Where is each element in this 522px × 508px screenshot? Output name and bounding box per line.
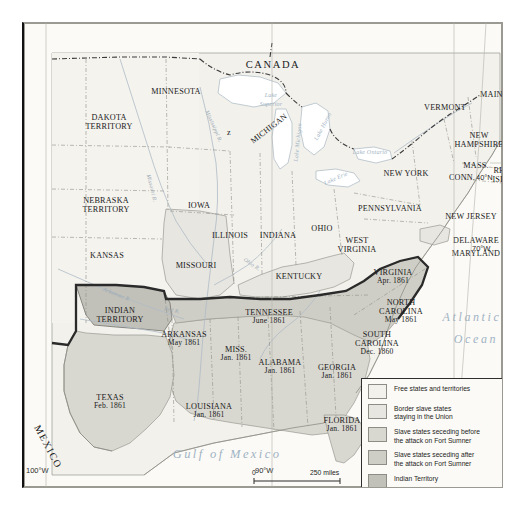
legend-label-line2: the attack on Fort Sumner xyxy=(394,437,480,446)
state-name: NEW JERSEY xyxy=(428,212,503,221)
state-label: MAINE xyxy=(451,90,503,99)
legend-label-line1: Slave states seceding after xyxy=(394,451,474,460)
scale-miles-label: 250 miles xyxy=(310,469,339,476)
state-name: VERMONT xyxy=(402,103,488,112)
legend-item: Free states and territories xyxy=(368,384,503,399)
state-label: MARYLAND xyxy=(433,249,503,258)
atlantic-ocean-label: Atlantic xyxy=(436,311,503,324)
state-label: NEW JERSEY xyxy=(428,212,503,221)
state-name: INDIAN xyxy=(77,306,163,315)
state-label: OHIO xyxy=(279,224,365,233)
state-name: IOWA xyxy=(156,201,242,210)
state-secession-date: June 1861 xyxy=(226,317,312,326)
legend-label-line1: Border slave states xyxy=(394,405,453,414)
scale-miles-zero: 0 xyxy=(252,469,256,476)
state-name: MISSOURI xyxy=(153,261,239,270)
canada-label: CANADA xyxy=(234,59,312,71)
state-name: SOUTH xyxy=(334,330,420,339)
state-label: TENNESSEEJune 1861 xyxy=(226,308,312,326)
state-secession-date: Jan. 1861 xyxy=(237,367,323,376)
map-container: Lake Superior Lake Huron Lake Ontario La… xyxy=(0,0,522,508)
state-name: PENNSYLVANIA xyxy=(347,204,433,213)
legend-color-swatch xyxy=(368,450,387,465)
legend-label-line1: Free states and territories xyxy=(394,385,470,394)
legend-label: Border slave statesstaying in the Union xyxy=(394,404,453,423)
legend-item: Indian Territory xyxy=(368,474,503,488)
state-name-line2: VIRGINIA xyxy=(314,245,400,254)
legend-item: Slave states seceding beforethe attack o… xyxy=(368,427,503,446)
state-label: KENTUCKY xyxy=(256,272,342,281)
state-label: TEXASFeb. 1861 xyxy=(67,393,153,411)
state-name: OHIO xyxy=(279,224,365,233)
atlantic-ocean-label2: Ocean xyxy=(442,333,503,346)
state-name: NORTH xyxy=(358,298,444,307)
state-label: VIRGINIAApr. 1861 xyxy=(350,268,436,286)
state-name: MAINE xyxy=(451,90,503,99)
state-name: NEBRASKA xyxy=(63,196,149,205)
state-label: DAKOTATERRITORY xyxy=(66,113,152,131)
gulf-of-mexico-label: Gulf of Mexico xyxy=(152,447,302,461)
state-secession-date: Jan. 1861 xyxy=(193,354,279,363)
state-secession-date: Feb. 1861 xyxy=(67,402,153,411)
state-name: MARYLAND xyxy=(433,249,503,258)
state-name-line2: TERRITORY xyxy=(66,122,152,131)
legend-label-line1: Slave states seceding before xyxy=(394,428,480,437)
state-name-line2: TERRITORY xyxy=(77,315,163,324)
state-label: VERMONT xyxy=(402,103,488,112)
state-name-line2: HAMPSHIRE xyxy=(436,140,503,149)
state-label: MINNESOTA xyxy=(133,87,219,96)
legend-color-swatch xyxy=(368,384,387,399)
state-name: NEW xyxy=(436,131,503,140)
graticule-label-90w: 90°W xyxy=(255,466,273,475)
map-frame: Lake Superior Lake Huron Lake Ontario La… xyxy=(22,22,503,488)
state-label: DELAWARE xyxy=(433,236,503,245)
state-label: NEBRASKATERRITORY xyxy=(63,196,149,214)
state-label: MISSOURI xyxy=(153,261,239,270)
state-label: INDIANTERRITORY xyxy=(77,306,163,324)
state-label: ARKANSASMay 1861 xyxy=(141,330,227,348)
state-secession-date: Dec. 1860 xyxy=(334,348,420,357)
legend-item: Slave states seceding afterthe attack on… xyxy=(368,450,503,469)
state-label: NEWHAMPSHIRE xyxy=(436,131,503,149)
state-label: SOUTHCAROLINADec. 1860 xyxy=(334,330,420,357)
legend-item: Border slave statesstaying in the Union xyxy=(368,404,503,423)
state-label: IOWA xyxy=(156,201,242,210)
scale-bar: 0 250 miles 0 250 kilometers xyxy=(252,475,362,488)
state-name: DAKOTA xyxy=(66,113,152,122)
state-label: PENNSYLVANIA xyxy=(347,204,433,213)
legend-label: Slave states seceding beforethe attack o… xyxy=(394,427,480,446)
state-name: MINNESOTA xyxy=(133,87,219,96)
scale-bar-graphic xyxy=(252,475,362,488)
lake-superior-label: Lake xyxy=(246,92,296,99)
state-secession-date: May 1861 xyxy=(141,339,227,348)
legend-label-line2: the attack on Fort Sumner xyxy=(394,460,474,469)
state-label: z xyxy=(186,128,272,137)
state-label: LOUISIANAJan. 1861 xyxy=(166,402,252,420)
state-name: z xyxy=(186,128,272,137)
legend-label-line1: Indian Territory xyxy=(394,475,438,484)
legend-label: Free states and territories xyxy=(394,384,470,394)
state-label: NORTHCAROLINAMay 1861 xyxy=(358,298,444,325)
state-secession-date: Apr. 1861 xyxy=(350,277,436,286)
state-name: KENTUCKY xyxy=(256,272,342,281)
lake-ontario-label: Lake Ontario xyxy=(340,149,400,156)
state-name: DELAWARE xyxy=(433,236,503,245)
legend-label-line2: staying in the Union xyxy=(394,413,453,422)
legend-color-swatch xyxy=(368,427,387,442)
graticule-label-100w: 100°W xyxy=(26,466,49,475)
legend-color-swatch xyxy=(368,474,387,488)
legend-color-swatch xyxy=(368,404,387,419)
state-secession-date: May 1861 xyxy=(358,316,444,325)
state-name: WEST xyxy=(314,236,400,245)
state-name: KANSAS xyxy=(64,251,150,260)
graticule-label-70w: 70°W xyxy=(472,244,490,253)
map-legend: Free states and territoriesBorder slave … xyxy=(361,378,503,488)
legend-label: Slave states seceding afterthe attack on… xyxy=(394,450,474,469)
legend-label: Indian Territory xyxy=(394,474,438,484)
state-name-line2: TERRITORY xyxy=(63,205,149,214)
state-secession-date: Jan. 1861 xyxy=(166,411,252,420)
state-label: KANSAS xyxy=(64,251,150,260)
state-label: WESTVIRGINIA xyxy=(314,236,400,254)
graticule-label-40n: 40°N xyxy=(476,173,493,182)
